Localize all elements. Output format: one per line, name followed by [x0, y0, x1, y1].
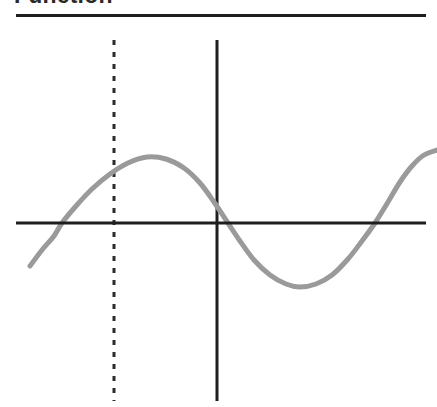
function-graph-page: Function — [0, 0, 437, 407]
plot-svg — [0, 0, 437, 407]
function-plot — [0, 0, 437, 407]
function-curve — [30, 150, 437, 287]
